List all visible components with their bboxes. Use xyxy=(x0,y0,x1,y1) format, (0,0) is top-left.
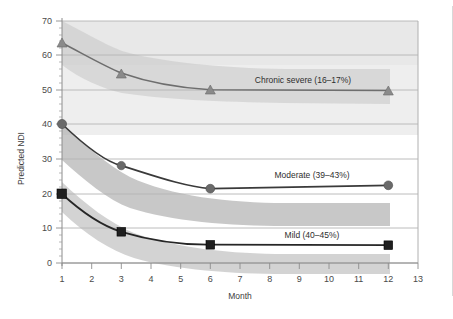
y-axis-ticks xyxy=(56,21,62,263)
y-tick-label-30: 30 xyxy=(42,154,52,164)
y-tick-label-70: 70 xyxy=(42,16,52,26)
x-tick-label-7: 7 xyxy=(237,274,242,284)
x-tick-label-5: 5 xyxy=(178,274,183,284)
x-tick-label-4: 4 xyxy=(148,274,153,284)
x-tick-label-13: 13 xyxy=(413,274,423,284)
ndi-prediction-line-chart: 70 60 50 40 30 20 10 0 Predicted NDI 1 2 xyxy=(0,0,453,319)
x-tick-label-6: 6 xyxy=(208,274,213,284)
x-tick-label-10: 10 xyxy=(324,274,334,284)
y-tick-label-20: 20 xyxy=(42,189,52,199)
series-label-moderate: Moderate (39–43%) xyxy=(274,170,349,180)
x-tick-label-11: 11 xyxy=(354,274,363,284)
x-axis-title: Month xyxy=(228,291,252,301)
y-tick-label-0: 0 xyxy=(47,258,52,268)
x-tick-label-9: 9 xyxy=(297,274,302,284)
x-tick-label-12: 12 xyxy=(383,274,393,284)
y-axis-title: Predicted NDI xyxy=(16,132,26,185)
y-tick-label-50: 50 xyxy=(42,85,52,95)
series-label-mild: Mild (40–45%) xyxy=(285,230,340,240)
x-tick-label-2: 2 xyxy=(89,274,94,284)
x-tick-label-1: 1 xyxy=(59,274,64,284)
y-tick-label-10: 10 xyxy=(42,223,52,233)
y-tick-label-40: 40 xyxy=(42,119,52,129)
series-label-chronic-severe: Chronic severe (16–17%) xyxy=(255,75,352,85)
y-tick-label-60: 60 xyxy=(42,50,52,60)
x-tick-label-3: 3 xyxy=(119,274,124,284)
x-tick-label-8: 8 xyxy=(267,274,272,284)
chart-figure: 70 60 50 40 30 20 10 0 Predicted NDI 1 2 xyxy=(0,0,453,319)
